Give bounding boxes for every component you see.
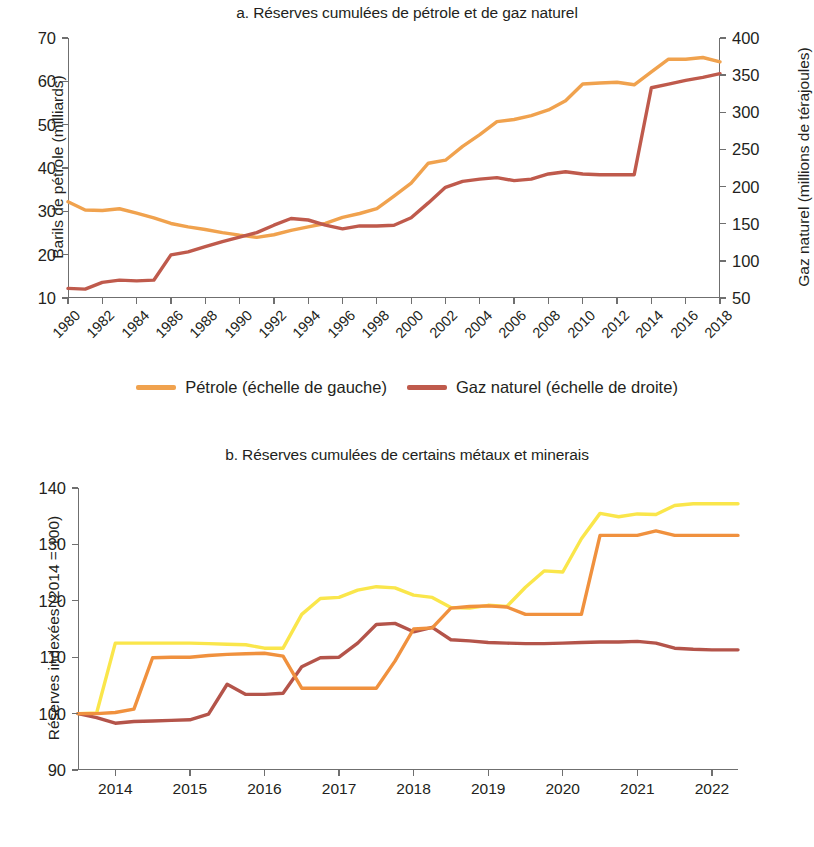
panel-a-legend-item[interactable]: Gaz naturel (échelle de droite) — [407, 378, 678, 397]
panel-b-tick-label: 90 — [12, 761, 66, 780]
panel-b-y-axis-title: Réserves indexées (2014 = 100) — [45, 478, 63, 778]
panel-a-legend-item[interactable]: Pétrole (échelle de gauche) — [136, 378, 387, 397]
panel-b-x-tick-label: 2018 — [396, 780, 430, 798]
panel-b-x-tick-label: 2017 — [322, 780, 356, 798]
panel-b-tick-label: 120 — [12, 591, 66, 610]
panel-b-x-tick-label: 2022 — [695, 780, 729, 798]
panel-a-left-tick-label: 70 — [4, 29, 56, 48]
panel-a-right-tick-label: 250 — [732, 140, 784, 159]
panel-a-right-tick-label: 300 — [732, 103, 784, 122]
panel-a-legend-label: Pétrole (échelle de gauche) — [185, 378, 387, 397]
panel-b-plot-area: 9010011012013014020142015201620172018201… — [78, 488, 738, 770]
panel-a-left-tick-label: 30 — [4, 202, 56, 221]
panel-a-legend-label: Gaz naturel (échelle de droite) — [456, 378, 678, 397]
panel-a-left-tick-label: 40 — [4, 159, 56, 178]
panel-b-x-tick-label: 2015 — [173, 780, 207, 798]
panel-a-right-tick-label: 350 — [732, 66, 784, 85]
panel-b-tick-label: 130 — [12, 535, 66, 554]
panel-b-line-cobalt — [78, 531, 738, 714]
panel-a-right-tick-label: 100 — [732, 251, 784, 270]
panel-b-series-svg — [78, 488, 738, 770]
panel-a-right-tick-label: 150 — [732, 214, 784, 233]
figure-root: a. Réserves cumulées de pétrole et de ga… — [0, 0, 814, 847]
panel-a-legend-swatch — [136, 385, 176, 390]
panel-a-title: a. Réserves cumulées de pétrole et de ga… — [0, 4, 814, 22]
panel-a-right-tick-label: 400 — [732, 29, 784, 48]
panel-a-legend-swatch — [407, 385, 447, 390]
panel-a-oil-gas: a. Réserves cumulées de pétrole et de ga… — [0, 0, 814, 420]
panel-a-plot-area: 1020304050607050100150200250300350400198… — [68, 38, 720, 298]
panel-a-line-pétrole — [68, 58, 720, 238]
panel-a-left-tick-label: 10 — [4, 289, 56, 308]
panel-b-title: b. Réserves cumulées de certains métaux … — [0, 446, 814, 464]
panel-b-x-tick-label: 2014 — [98, 780, 132, 798]
panel-a-right-tick-label: 50 — [732, 289, 784, 308]
panel-b-tick-label: 100 — [12, 704, 66, 723]
panel-a-left-tick-label: 20 — [4, 245, 56, 264]
panel-b-x-tick-label: 2020 — [545, 780, 579, 798]
panel-a-legend: Pétrole (échelle de gauche)Gaz naturel (… — [0, 378, 814, 397]
panel-b-x-tick-label: 2019 — [471, 780, 505, 798]
panel-a-right-axis-title: Gaz naturel (millions de térajoules) — [795, 17, 813, 317]
panel-b-tick-label: 140 — [12, 479, 66, 498]
panel-a-series-svg — [68, 38, 720, 298]
panel-b-tick-label: 110 — [12, 648, 66, 667]
panel-a-line-gaz — [68, 74, 720, 289]
panel-a-right-tick-label: 200 — [732, 177, 784, 196]
panel-a-left-tick-label: 50 — [4, 115, 56, 134]
panel-b-x-tick-label: 2016 — [247, 780, 281, 798]
panel-b-metals: b. Réserves cumulées de certains métaux … — [0, 440, 814, 847]
panel-b-x-tick-label: 2021 — [620, 780, 654, 798]
panel-a-left-tick-label: 60 — [4, 72, 56, 91]
